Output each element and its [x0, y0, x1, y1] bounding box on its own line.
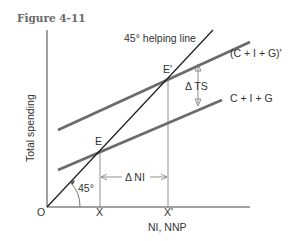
delta-ni-label: Δ NI — [125, 171, 145, 183]
delta-ts-label: Δ TS — [185, 80, 208, 92]
x-prime-tick-label: X' — [164, 206, 173, 218]
lower-curve-line — [58, 100, 222, 170]
angle-label: 45° — [78, 182, 94, 194]
point-e-prime-label: E' — [163, 63, 172, 75]
x-tick-label: X — [96, 206, 103, 218]
x-axis-label: NI, NNP — [148, 221, 187, 233]
upper-curve-label: (C + I + G)' — [230, 47, 282, 59]
helping-line-label: 45° helping line — [124, 32, 196, 44]
lower-curve-label: C + I + G — [230, 92, 273, 104]
angle-arrow-icon — [70, 180, 75, 185]
upper-curve-line — [58, 42, 250, 130]
point-e-label: E — [95, 135, 102, 147]
origin-label: O — [37, 206, 45, 218]
y-axis-label: Total spending — [24, 94, 36, 162]
diagram-canvas: 45° helping line (C + I + G)' C + I + G … — [0, 0, 299, 241]
